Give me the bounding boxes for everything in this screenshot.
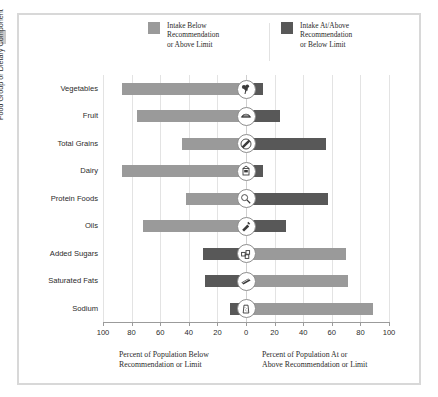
y-axis-label: Fruit	[18, 102, 98, 129]
x-axis-tick	[189, 322, 190, 326]
added-sugars-icon	[237, 244, 256, 263]
legend-item-intake-below: Intake Below Recommendation or Above Lim…	[148, 21, 219, 49]
chart-row	[103, 267, 389, 294]
legend-label-line2: Recommendation	[167, 30, 219, 39]
chart-row	[103, 240, 389, 267]
y-axis-label: Dairy	[18, 157, 98, 184]
x-axis-tick	[246, 322, 247, 326]
y-axis-label: Sodium	[18, 295, 98, 322]
x-axis-tick	[275, 322, 276, 326]
x-caption-right-line1: Percent of Population At or	[262, 350, 367, 360]
x-axis-tick	[160, 322, 161, 326]
chart-row	[103, 185, 389, 212]
x-caption-right-line2: Above Recommendation or Limit	[262, 360, 367, 370]
x-caption-right: Percent of Population At or Above Recomm…	[262, 350, 367, 370]
x-axis-tick-label: 60	[328, 328, 336, 337]
y-axis-label: Protein Foods	[18, 185, 98, 212]
x-axis-tick	[103, 322, 104, 326]
bar-below-recommendation	[122, 165, 246, 177]
chart-page: Intake Below Recommendation or Above Lim…	[0, 0, 438, 397]
x-axis-tick-label: 60	[156, 328, 164, 337]
x-axis-tick	[217, 322, 218, 326]
x-caption-left: Percent of Population Below Recommendati…	[119, 350, 209, 370]
chart-row	[103, 157, 389, 184]
fruit-icon	[237, 107, 256, 126]
x-axis-tick-label: 20	[270, 328, 278, 337]
x-axis-tick-label: 40	[299, 328, 307, 337]
y-axis-labels: VegetablesFruitTotal GrainsDairyProtein …	[14, 75, 98, 322]
x-axis-tick	[389, 322, 390, 326]
dairy-icon	[237, 162, 256, 181]
broccoli-icon	[237, 80, 256, 99]
x-axis-tick	[303, 322, 304, 326]
saturated-fats-icon	[237, 272, 256, 291]
y-axis-label: Saturated Fats	[18, 267, 98, 294]
bar-at-or-above-recommendation	[246, 303, 373, 315]
y-axis-label: Oils	[18, 212, 98, 239]
x-axis-tick-label: 20	[213, 328, 221, 337]
x-axis-tick-label: 100	[97, 328, 110, 337]
x-axis-tick-label: 80	[127, 328, 135, 337]
plot-area	[103, 75, 389, 322]
legend-divider	[269, 23, 270, 61]
x-axis-tick-label: 100	[383, 328, 396, 337]
y-axis-title: Food Group or Dietary Component	[0, 9, 5, 120]
x-caption-left-line1: Percent of Population Below	[119, 350, 209, 360]
bar-below-recommendation	[143, 220, 246, 232]
legend-label-line3: or Below Limit	[300, 40, 352, 49]
x-axis-tick-label: 40	[185, 328, 193, 337]
gridline	[389, 75, 390, 322]
legend-label-line2: Recommendation	[300, 30, 352, 39]
x-axis-tick	[360, 322, 361, 326]
chart-row	[103, 295, 389, 322]
x-axis-tick-label: 0	[244, 328, 248, 337]
bar-at-or-above-recommendation	[246, 248, 346, 260]
legend-swatch-intake-below	[148, 22, 160, 34]
x-axis-tick-label: 80	[356, 328, 364, 337]
chart-row	[103, 102, 389, 129]
bar-below-recommendation	[122, 83, 246, 95]
chart-row	[103, 212, 389, 239]
legend-label-line1: Intake At/Above	[300, 21, 352, 30]
chart-row	[103, 130, 389, 157]
legend-label-intake-at-above: Intake At/Above Recommendation or Below …	[300, 21, 352, 49]
x-axis-tick	[332, 322, 333, 326]
y-axis-label: Vegetables	[18, 75, 98, 102]
oils-icon	[237, 217, 256, 236]
protein-icon	[237, 189, 256, 208]
chart-row	[103, 75, 389, 102]
x-caption-left-line2: Recommendation or Limit	[119, 360, 209, 370]
sodium-icon	[237, 299, 256, 318]
legend-swatch-intake-at-above	[281, 22, 293, 34]
x-axis-tick	[132, 322, 133, 326]
grains-icon	[237, 134, 256, 153]
legend-label-line1: Intake Below	[167, 21, 219, 30]
chart-legend: Intake Below Recommendation or Above Lim…	[55, 21, 385, 65]
y-axis-label: Added Sugars	[18, 240, 98, 267]
bar-at-or-above-recommendation	[246, 138, 326, 150]
bar-at-or-above-recommendation	[246, 193, 328, 205]
legend-label-line3: or Above Limit	[167, 40, 219, 49]
legend-label-intake-below: Intake Below Recommendation or Above Lim…	[167, 21, 219, 49]
legend-item-intake-at-above: Intake At/Above Recommendation or Below …	[281, 21, 352, 49]
bar-at-or-above-recommendation	[246, 275, 348, 287]
y-axis-label: Total Grains	[18, 130, 98, 157]
bar-below-recommendation	[137, 110, 246, 122]
